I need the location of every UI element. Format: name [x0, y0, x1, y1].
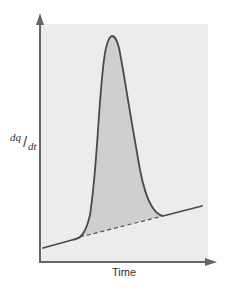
y-axis-label-denominator: dt: [28, 140, 37, 152]
x-axis-label: Time: [112, 266, 136, 278]
y-axis-label-slash: /: [23, 133, 27, 150]
y-axis-label: dq / dt: [8, 131, 38, 155]
y-axis-label-numerator: dq: [10, 131, 21, 143]
y-axis-arrow-icon: [36, 13, 44, 25]
x-axis-arrow-icon: [205, 258, 217, 266]
